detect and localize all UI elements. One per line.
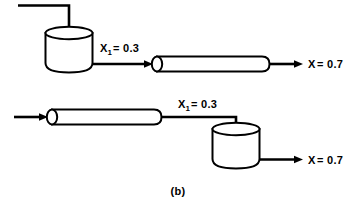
figure-caption: (b) xyxy=(171,185,186,197)
label-top-intermediate: X 1 = 0.3 xyxy=(100,42,139,57)
label-bottom-intermediate: X 1 = 0.3 xyxy=(178,98,217,113)
label-top-intermediate-subscript: 1 xyxy=(108,48,113,57)
tank-top-lid xyxy=(46,27,93,39)
label-bottom-product-value: = 0.7 xyxy=(317,154,343,166)
label-bottom-product-symbol: X xyxy=(308,154,316,166)
equipment-tank-top xyxy=(46,27,93,73)
equipment-tank-bottom xyxy=(213,123,260,169)
label-top-intermediate-value: = 0.3 xyxy=(113,42,139,54)
pipe-bottom-inlet-cap xyxy=(47,110,57,125)
pipe-top-inlet-cap xyxy=(152,57,162,72)
feed-top-line xyxy=(18,6,69,29)
label-bottom-product: X = 0.7 xyxy=(308,154,343,166)
label-bottom-intermediate-value: = 0.3 xyxy=(191,98,217,110)
equipment-pipe-bottom xyxy=(47,110,162,125)
tank-bottom-lid xyxy=(213,123,260,135)
label-bottom-intermediate-subscript: 1 xyxy=(186,104,191,113)
product-bottom-arrowhead xyxy=(294,156,303,164)
equipment-pipe-top xyxy=(152,57,270,72)
label-top-product: X = 0.7 xyxy=(308,58,343,70)
stream-intermediate-top xyxy=(92,60,153,68)
pipe-top-body xyxy=(157,57,270,72)
pipe-bottom-body xyxy=(52,110,162,125)
figure-container: X 1 = 0.3 X = 0.7 X 1 = 0.3 X = 0.7 (b) xyxy=(0,0,356,202)
stream-product-bottom xyxy=(259,156,303,164)
product-top-arrowhead xyxy=(294,60,303,68)
label-top-product-symbol: X xyxy=(308,58,316,70)
process-flow-diagram: X 1 = 0.3 X = 0.7 X 1 = 0.3 X = 0.7 (b) xyxy=(0,0,356,202)
stream-product-top xyxy=(269,60,303,68)
label-top-product-value: = 0.7 xyxy=(317,58,343,70)
stream-feed-bottom xyxy=(14,113,48,121)
